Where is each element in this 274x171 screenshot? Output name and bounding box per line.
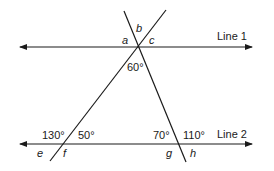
angle-60-label: 60° (127, 61, 144, 73)
angle-c-label: c (149, 34, 155, 46)
angle-70-label: 70° (153, 129, 170, 141)
angle-f-label: f (63, 147, 67, 159)
angle-130-label: 130° (42, 129, 65, 141)
angle-h-label: h (190, 147, 196, 159)
angle-110-label: 110° (183, 129, 205, 141)
geometry-diagram: Line 1 Line 2 a b c 60° 130° 50° e f 70°… (0, 0, 274, 171)
line-1-label: Line 1 (217, 30, 247, 42)
angle-b-label: b (136, 22, 142, 34)
angle-a-label: a (122, 34, 128, 46)
angle-50-label: 50° (78, 129, 95, 141)
angle-g-label: g (166, 147, 173, 159)
line-2-label: Line 2 (217, 128, 247, 140)
angle-e-label: e (37, 147, 43, 159)
transversal-left (50, 10, 166, 161)
